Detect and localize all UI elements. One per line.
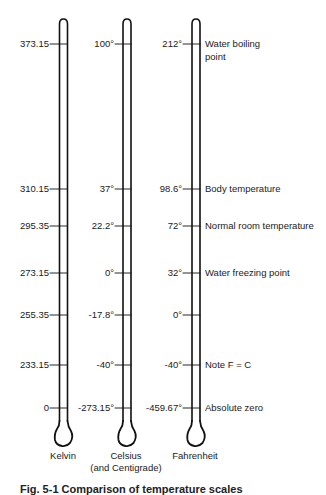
celsius-value: -273.15° xyxy=(60,402,114,413)
annotation-room-temperature: Normal room temperature xyxy=(205,220,314,231)
fahrenheit-value: 0° xyxy=(130,309,182,320)
kelvin-value: 273.15 xyxy=(0,267,49,278)
scale-name-kelvin: Kelvin xyxy=(33,450,93,462)
fahrenheit-value: 72° xyxy=(130,220,182,231)
fahrenheit-value: -40° xyxy=(130,359,182,370)
annotation-water-freezing: Water freezing point xyxy=(205,267,290,278)
celsius-value: 0° xyxy=(60,267,114,278)
scale-name-celsius: Celsius xyxy=(96,450,156,462)
annotation-water-boiling: Water boiling xyxy=(205,38,260,49)
annotation-water-boiling-line2: point xyxy=(205,51,226,62)
celsius-value: -17.8° xyxy=(60,309,114,320)
kelvin-value: 0 xyxy=(0,402,49,413)
annotation-body-temperature: Body temperature xyxy=(205,183,281,194)
fahrenheit-value: -459.67° xyxy=(130,402,182,413)
scale-subtitle-celsius: (and Centigrade) xyxy=(86,462,166,474)
figure-caption: Fig. 5-1 Comparison of temperature scale… xyxy=(20,483,243,495)
annotation-absolute-zero: Absolute zero xyxy=(205,402,263,413)
scale-name-fahrenheit: Fahrenheit xyxy=(165,450,225,462)
kelvin-value: 255.35 xyxy=(0,309,49,320)
fahrenheit-thermometer-icon xyxy=(187,19,205,446)
kelvin-value: 295.35 xyxy=(0,220,49,231)
fahrenheit-value: 212° xyxy=(130,38,182,49)
celsius-value: -40° xyxy=(60,359,114,370)
kelvin-value: 310.15 xyxy=(0,183,49,194)
celsius-value: 22.2° xyxy=(60,220,114,231)
celsius-thermometer-icon xyxy=(118,19,136,446)
kelvin-thermometer-icon xyxy=(55,19,73,446)
kelvin-value: 233.15 xyxy=(0,359,49,370)
kelvin-value: 373.15 xyxy=(0,38,49,49)
celsius-value: 100° xyxy=(60,38,114,49)
fahrenheit-value: 32° xyxy=(130,267,182,278)
annotation-f-equals-c: Note F = C xyxy=(205,359,251,370)
fahrenheit-value: 98.6° xyxy=(130,183,182,194)
celsius-value: 37° xyxy=(60,183,114,194)
